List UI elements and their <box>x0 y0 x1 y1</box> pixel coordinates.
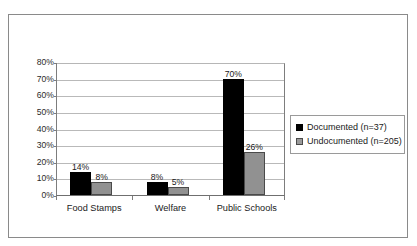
y-axis-tick-label: 40% <box>14 125 54 134</box>
legend-item-label: Undocumented (n=205) <box>307 136 402 146</box>
x-axis-category-label: Public Schools <box>209 203 285 214</box>
plot-area: 14%8%8%5%70%26% <box>56 63 285 196</box>
x-axis: Food StampsWelfarePublic Schools <box>56 203 285 217</box>
y-axis: 0%10%20%30%40%50%60%70%80% <box>11 15 54 237</box>
bar-undocumented <box>168 187 189 195</box>
bar-value-label: 70% <box>217 70 250 79</box>
y-axis-tick-mark <box>54 63 57 64</box>
y-axis-tick-label: 60% <box>14 91 54 100</box>
gridline <box>57 130 284 131</box>
y-axis-tick-label: 80% <box>14 58 54 67</box>
cut-off-caption <box>0 0 417 9</box>
bar-undocumented <box>244 152 265 195</box>
y-axis-tick-mark <box>54 113 57 114</box>
bar-value-label: 5% <box>162 178 195 187</box>
bar-documented <box>223 79 244 195</box>
legend-item-label: Documented (n=37) <box>307 122 387 132</box>
y-axis-tick-label: 50% <box>14 108 54 117</box>
x-axis-category-label: Food Stamps <box>56 203 132 214</box>
gridline <box>57 80 284 81</box>
y-axis-tick-label: 10% <box>14 174 54 183</box>
x-axis-tick-mark <box>209 196 210 200</box>
bar-undocumented <box>91 182 112 195</box>
legend-item: Undocumented (n=205) <box>296 134 399 148</box>
y-axis-tick-mark <box>54 80 57 81</box>
y-axis-tick-mark <box>54 146 57 147</box>
documented-swatch <box>296 124 303 131</box>
y-axis-tick-mark <box>54 96 57 97</box>
undocumented-swatch <box>296 138 303 145</box>
x-axis-tick-mark <box>284 196 285 200</box>
y-axis-tick-label: 0% <box>14 191 54 200</box>
bar-value-label: 14% <box>64 163 97 172</box>
gridline <box>57 113 284 114</box>
y-axis-tick-label: 70% <box>14 75 54 84</box>
x-axis-tick-mark <box>56 196 57 200</box>
bar-value-label: 26% <box>238 143 271 152</box>
x-axis-ticks <box>56 196 285 201</box>
y-axis-tick-label: 30% <box>14 141 54 150</box>
y-axis-tick-mark <box>54 179 57 180</box>
bar-value-label: 8% <box>85 173 118 182</box>
chart-frame: 0%10%20%30%40%50%60%70%80% 14%8%8%5%70%2… <box>8 14 408 238</box>
y-axis-tick-label: 20% <box>14 158 54 167</box>
y-axis-tick-mark <box>54 130 57 131</box>
gridline <box>57 96 284 97</box>
y-axis-tick-mark <box>54 163 57 164</box>
legend-item: Documented (n=37) <box>296 120 399 134</box>
x-axis-category-label: Welfare <box>132 203 208 214</box>
chart-legend: Documented (n=37)Undocumented (n=205) <box>290 115 405 154</box>
x-axis-tick-mark <box>132 196 133 200</box>
